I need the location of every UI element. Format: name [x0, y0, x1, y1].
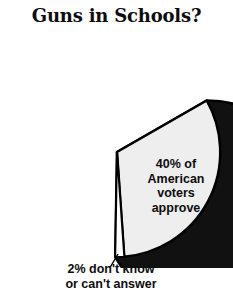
pie-chart-graphic	[0, 28, 233, 268]
pie-label-oppose: 58% of American voters oppose	[22, 72, 170, 116]
pie-label-approve: 40% of American voters approve	[128, 157, 224, 215]
chart-title: Guns in Schools?	[0, 6, 233, 26]
pie-label-dont-know: 2% don't know or can't answer	[21, 262, 201, 292]
pie-chart-figure: Guns in Schools? 58% of American voters …	[0, 0, 233, 297]
